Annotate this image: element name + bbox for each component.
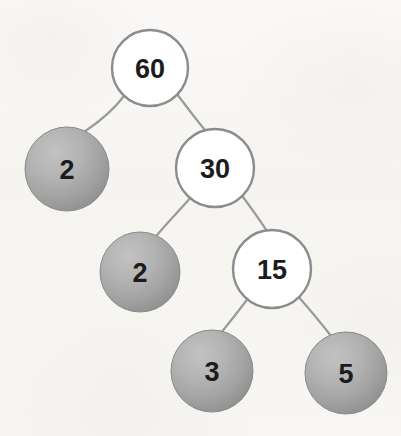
node-value-label: 30 [200,154,230,184]
diagram-canvas: 6023021535 [0,0,401,436]
tree-edge-n60-n30 [177,94,205,130]
node-value-label: 3 [204,357,219,387]
node-value-label: 5 [338,359,353,389]
tree-node-15-n15[interactable]: 15 [233,230,311,308]
tree-edge-n15-n5 [297,295,331,336]
tree-node-60-n60[interactable]: 60 [112,30,188,106]
tree-node-5-n5[interactable]: 5 [305,332,387,414]
node-value-label: 60 [135,54,165,84]
tree-edge-n60-n2a [84,96,124,132]
node-value-label: 2 [59,155,74,185]
tree-edge-n30-n15 [240,193,267,231]
tree-node-30-n30[interactable]: 30 [176,129,254,207]
binary-tree-figure: 6023021535 [0,0,401,436]
node-value-label: 2 [132,258,147,288]
nodes-layer: 6023021535 [25,30,387,414]
tree-node-2-n2b[interactable]: 2 [100,232,180,312]
tree-edge-n15-n3 [221,297,249,333]
tree-edge-n30-n2b [157,196,192,235]
tree-node-3-n3[interactable]: 3 [171,330,253,412]
node-value-label: 15 [257,255,287,285]
tree-node-2-n2a[interactable]: 2 [25,127,109,211]
